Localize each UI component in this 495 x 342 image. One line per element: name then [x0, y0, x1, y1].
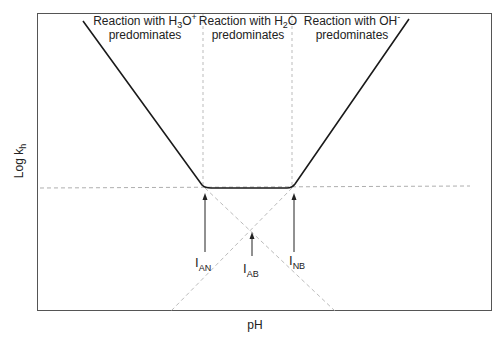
- region-label-water: Reaction with H2O predominates: [188, 14, 308, 42]
- arrow-inb: [292, 193, 297, 252]
- label-i-an: IAN: [195, 256, 211, 270]
- label-i-nb: INB: [289, 254, 305, 268]
- acid-extension-dashed: [205, 188, 335, 311]
- base-extension-dashed: [171, 188, 292, 311]
- y-axis-label: Log kh: [12, 136, 26, 186]
- x-axis-label: pH: [240, 318, 270, 332]
- region-label-hydroxide: Reaction with OH- predominates: [292, 14, 412, 42]
- ph-rate-profile-diagram: [0, 0, 495, 342]
- plot-frame: [38, 14, 492, 311]
- arrow-ian: [203, 193, 208, 252]
- region-label-hydronium: Reaction with H3O+ predominates: [85, 14, 205, 42]
- label-i-ab: IAB: [243, 262, 259, 276]
- rate-profile-curve: [83, 19, 409, 188]
- arrow-iab: [250, 232, 255, 256]
